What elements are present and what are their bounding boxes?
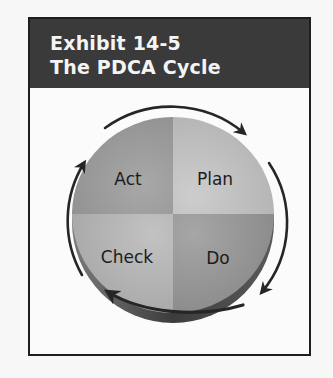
quadrant-do: Do (173, 214, 274, 313)
quadrant-label-do: Do (206, 248, 230, 268)
quadrant-label-act: Act (114, 169, 142, 189)
quadrant-label-check: Check (101, 247, 153, 267)
quadrant-plan: Plan (173, 117, 274, 214)
quadrant-act: Act (72, 117, 173, 214)
quadrant-label-plan: Plan (197, 169, 233, 189)
pdca-diagram: Act Plan Do Check (0, 0, 333, 378)
